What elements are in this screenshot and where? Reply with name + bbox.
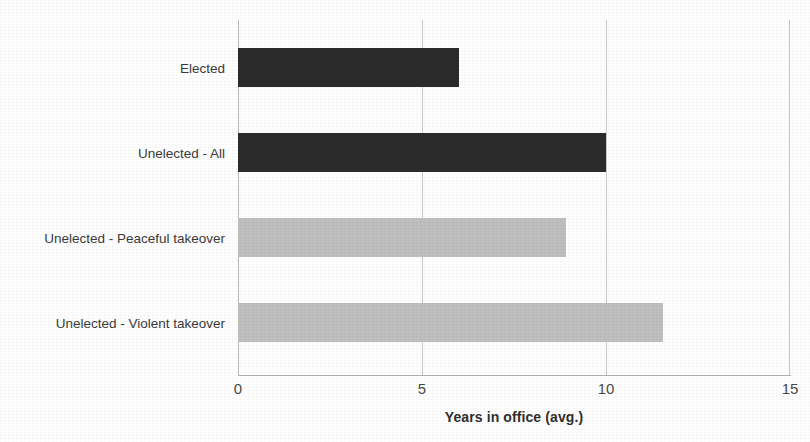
x-tick-label-15: 15 <box>770 381 810 396</box>
category-label-elected: Elected <box>0 62 225 76</box>
bar-chart: Elected Unelected - All Unelected - Peac… <box>0 0 810 442</box>
x-axis-baseline <box>238 375 791 376</box>
bar-unelected-violent-takeover[interactable] <box>238 303 663 342</box>
x-tick-label-0: 0 <box>218 381 258 396</box>
category-label-unelected-violent-takeover: Unelected - Violent takeover <box>0 317 225 331</box>
category-label-unelected-all: Unelected - All <box>0 147 225 161</box>
x-tick-label-5: 5 <box>402 381 442 396</box>
x-tick-label-10: 10 <box>586 381 626 396</box>
category-label-unelected-peaceful-takeover: Unelected - Peaceful takeover <box>0 232 225 246</box>
bar-elected[interactable] <box>238 48 459 87</box>
bar-unelected-peaceful-takeover[interactable] <box>238 218 566 257</box>
gridline-15 <box>789 20 790 375</box>
plot-area <box>238 20 790 375</box>
x-axis-title: Years in office (avg.) <box>238 409 790 425</box>
bar-unelected-all[interactable] <box>238 133 606 172</box>
